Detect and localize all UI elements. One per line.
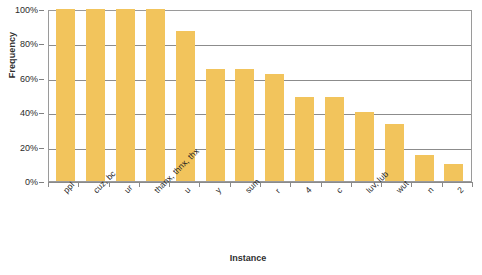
bar-group [49, 11, 471, 181]
y-axis-tick-mark [39, 10, 44, 11]
x-axis-tick-mark [290, 182, 291, 187]
x-axis-tick-mark [230, 182, 231, 187]
x-axis-title: Instance [0, 253, 482, 263]
bar [146, 9, 165, 181]
bar [295, 97, 314, 181]
x-axis-tick-mark [78, 182, 79, 187]
bar [444, 164, 463, 181]
x-axis-tick-mark [442, 182, 443, 187]
y-axis-tick-mark [39, 44, 44, 45]
y-axis-tick-label: 60% [20, 74, 38, 84]
y-axis-tick-label: 80% [20, 39, 38, 49]
bar [325, 97, 344, 181]
x-axis-tick-mark [411, 182, 412, 187]
x-axis-label-group: pplcuz, bcurthanx, thnx, thxuysumr4cluv,… [48, 188, 472, 248]
y-axis-tick-label: 20% [20, 143, 38, 153]
x-axis-tick-mark [139, 182, 140, 187]
bar [415, 155, 434, 181]
plot-area [48, 10, 472, 182]
x-axis-tick-mark [48, 182, 49, 187]
bar [265, 74, 284, 181]
bar-chart: Frequency 100%80%60%40%20%0% pplcuz, bcu… [0, 0, 482, 275]
x-axis-tick-mark [351, 182, 352, 187]
bar [116, 9, 135, 181]
y-axis-tick-group: 100%80%60%40%20%0% [0, 0, 44, 190]
bar [355, 112, 374, 181]
bar [206, 69, 225, 181]
x-axis-tick-label: r [273, 186, 282, 195]
bar [86, 9, 105, 181]
x-axis-tick-mark [472, 182, 473, 187]
y-axis-tick-mark [39, 148, 44, 149]
y-axis-tick-mark [39, 182, 44, 183]
y-axis-tick-mark [39, 113, 44, 114]
y-axis-tick-label: 100% [15, 5, 38, 15]
x-axis-tick-mark [321, 182, 322, 187]
x-axis-tick-mark [199, 182, 200, 187]
bar [235, 69, 254, 181]
y-axis-tick-mark [39, 79, 44, 80]
bar [56, 9, 75, 181]
y-axis-tick-label: 0% [25, 177, 38, 187]
y-axis-tick-label: 40% [20, 108, 38, 118]
